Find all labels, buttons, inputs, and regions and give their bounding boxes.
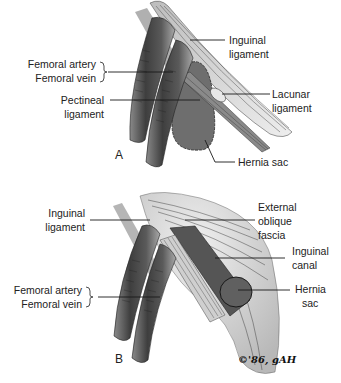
label-lacunar-a-1: Lacunar (272, 87, 310, 101)
brace-a (100, 62, 107, 82)
label-inguinal-b-1: Inguinal (0, 206, 85, 220)
label-external-b-1: External (258, 200, 297, 214)
brace-b (86, 287, 93, 307)
label-inguinal-b-2: ligament (0, 220, 85, 234)
panel-letter-b: B (115, 352, 123, 366)
label-femoral-artery-a: Femoral artery (0, 57, 96, 71)
panel-letter-a: A (115, 148, 123, 162)
label-femoral-vein-b: Femoral vein (0, 297, 82, 311)
hernia-sac-b (220, 277, 252, 307)
label-lacunar-a-2: ligament (272, 101, 312, 115)
label-pectineal-a-1: Pectineal (0, 93, 104, 107)
label-canal-b-2: canal (292, 258, 317, 272)
label-pectineal-a-2: ligament (0, 107, 104, 121)
label-external-b-2: oblique (258, 214, 292, 228)
artist-signature: ©'86, gAH (238, 354, 296, 365)
label-inguinal-a-2: ligament (229, 47, 269, 61)
label-hernia-b-1: Hernia (295, 282, 326, 296)
label-inguinal-a-1: Inguinal (229, 33, 266, 47)
panel-a-drawing (100, 1, 292, 167)
label-external-b-3: fascia (258, 228, 285, 242)
label-femoral-artery-b: Femoral artery (0, 283, 82, 297)
label-canal-b-1: Inguinal (292, 244, 329, 258)
hernia-anatomy-figure: Femoral artery Femoral vein Pectineal li… (0, 0, 341, 383)
label-hernia-b-2: sac (302, 296, 318, 310)
label-femoral-vein-a: Femoral vein (0, 71, 96, 85)
label-hernia-sac-a: Hernia sac (238, 155, 288, 169)
